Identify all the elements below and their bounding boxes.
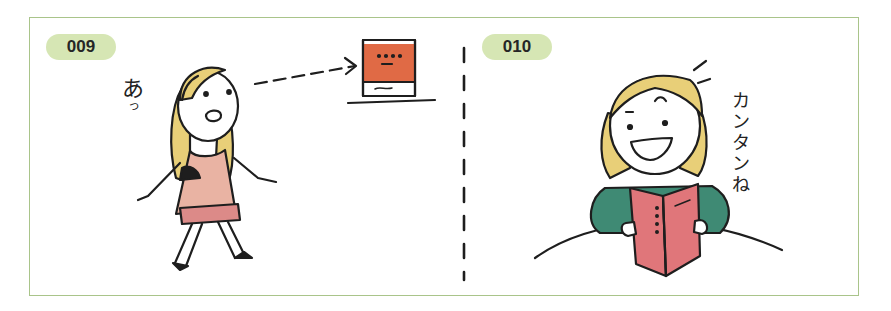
speech-char: ン [730, 153, 752, 174]
comic-frame: 009 010 あ っ カ ン タ ン ね [29, 17, 859, 296]
exclamation-text: あ っ [122, 78, 146, 112]
speech-vertical-text: カ ン タ ン ね [730, 90, 752, 195]
panel-number-badge-010: 010 [482, 34, 552, 60]
panel-number-badge-009: 009 [46, 34, 116, 60]
speech-char: ね [730, 174, 752, 195]
exclamation-small: っ [128, 100, 146, 112]
speech-char: ン [730, 111, 752, 132]
exclamation-main: あ [122, 76, 144, 101]
panel-009-illustration [138, 40, 464, 280]
speech-char: カ [730, 90, 752, 111]
speech-char: タ [730, 132, 752, 153]
